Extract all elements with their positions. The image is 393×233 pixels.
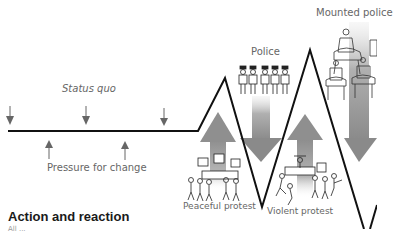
status-quo-label: Status quo: [62, 83, 116, 94]
mounted-police-label: Mounted police: [316, 7, 393, 18]
pressure-up-arrow-icon: [45, 140, 129, 160]
pressure-for-change-label: Pressure for change: [47, 162, 147, 173]
police-label: Police: [251, 46, 280, 57]
violent-protest-label: Violent protest: [267, 206, 333, 216]
diagram-title: Action and reaction: [8, 209, 129, 224]
peaceful-protest-label: Peaceful protest: [183, 201, 256, 211]
police-figures-icon: [239, 66, 289, 94]
status-quo-down-arrow-icon: [6, 106, 168, 126]
diagram-subtitle: All ...: [8, 225, 26, 233]
peaceful-protesters-icon: [188, 154, 240, 201]
